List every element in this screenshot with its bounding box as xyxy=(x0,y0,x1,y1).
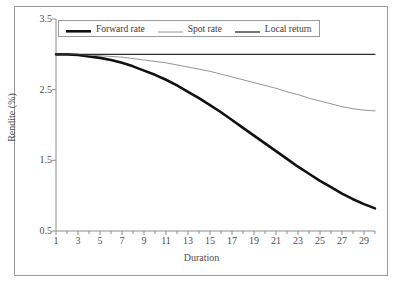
chart-legend: Forward rateSpot rateLocal return xyxy=(58,20,320,37)
legend-swatch-line-icon xyxy=(66,20,91,38)
x-tick-label: 23 xyxy=(293,236,303,246)
series-line-forward-rate xyxy=(56,54,375,208)
y-tick-label: 2.5 xyxy=(18,85,52,95)
legend-item-local-return[interactable]: Local return xyxy=(235,20,312,38)
plot-svg xyxy=(56,19,375,231)
plot-area xyxy=(56,19,375,231)
legend-item-forward-rate[interactable]: Forward rate xyxy=(66,20,145,38)
x-tick-label: 19 xyxy=(249,236,259,246)
x-tick-label: 7 xyxy=(120,236,125,246)
x-tick-label: 9 xyxy=(142,236,147,246)
x-tick-label: 13 xyxy=(183,236,193,246)
x-tick-label: 17 xyxy=(227,236,237,246)
x-tick-label: 5 xyxy=(98,236,103,246)
x-axis-title: Duration xyxy=(0,252,403,263)
x-tick-label: 11 xyxy=(161,236,171,246)
x-tick-label: 21 xyxy=(271,236,281,246)
y-axis-title: Rendite (%) xyxy=(6,63,17,173)
legend-item-spot-rate[interactable]: Spot rate xyxy=(158,20,222,38)
legend-label: Forward rate xyxy=(96,24,145,34)
legend-label: Spot rate xyxy=(188,24,222,34)
x-tick-label: 29 xyxy=(359,236,369,246)
legend-swatch-line-icon xyxy=(235,20,260,38)
chart-figure: 3.52.51.50.5 1357911131517192123252729 D… xyxy=(0,0,403,284)
axis-spines xyxy=(56,19,375,231)
x-tick-label: 1 xyxy=(54,236,59,246)
legend-label: Local return xyxy=(265,24,312,34)
x-tick-label: 3 xyxy=(76,236,81,246)
legend-swatch-line-icon xyxy=(158,20,183,38)
x-tick-label: 27 xyxy=(337,236,347,246)
y-tick-label: 0.5 xyxy=(18,226,52,236)
x-tick-label: 25 xyxy=(315,236,325,246)
y-tick-label: 1.5 xyxy=(18,155,52,165)
y-tick-label: 3.5 xyxy=(18,14,52,24)
x-axis-tick-labels: 1357911131517192123252729 xyxy=(0,236,403,250)
x-tick-label: 15 xyxy=(205,236,215,246)
series-line-spot-rate xyxy=(56,54,375,111)
